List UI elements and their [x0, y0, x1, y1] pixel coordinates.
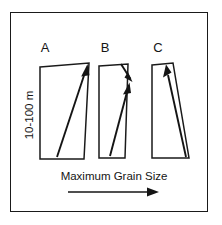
- grain-size-trend-diagram: A B C 10-100 m Maxi: [0, 0, 222, 225]
- trend-arrow-a-shaft: [57, 74, 85, 157]
- log-panel-a: [40, 63, 90, 159]
- vertical-axis-label: 10-100 m: [23, 91, 35, 140]
- trend-arrow-b-upper-head: [125, 72, 133, 82]
- panel-letter-b: B: [101, 40, 110, 55]
- horizontal-axis-label: Maximum Grain Size: [61, 170, 168, 182]
- panel-letter-c: C: [153, 40, 162, 55]
- log-panel-c: [152, 63, 189, 158]
- figure-root: A B C 10-100 m Maxi: [0, 0, 222, 225]
- trend-arrow-b-lower-shaft: [110, 92, 127, 156]
- grain-size-arrow-head: [147, 188, 159, 197]
- grain-size-direction-arrow: [68, 188, 159, 197]
- log-outline-a: [40, 63, 89, 159]
- panel-letter-a: A: [41, 40, 50, 55]
- log-panel-b: [99, 64, 133, 158]
